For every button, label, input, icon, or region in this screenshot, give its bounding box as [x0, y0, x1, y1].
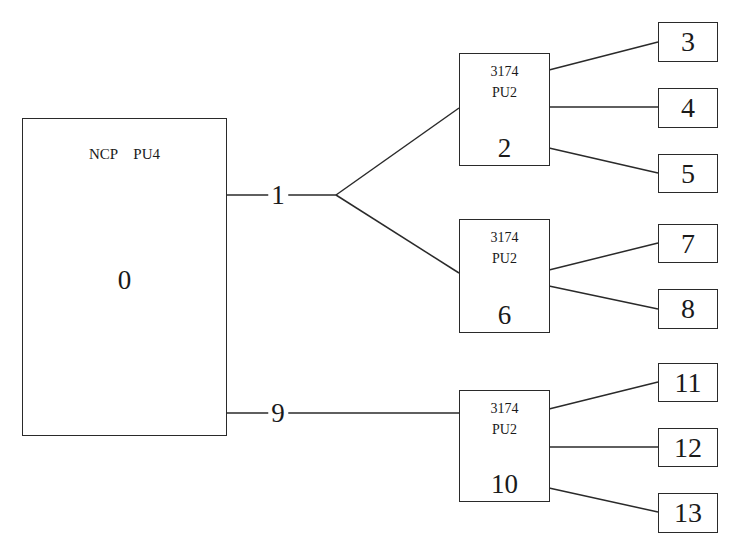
link-1-branch-to-6 [336, 195, 459, 273]
controller-box-6: 3174 PU2 6 [459, 219, 550, 333]
controller-model: 3174 [460, 402, 549, 416]
host-ncp-box: NCP PU4 0 [22, 118, 227, 436]
host-title: NCP PU4 [23, 146, 226, 163]
terminal-box-4: 4 [658, 88, 718, 128]
terminal-box-11: 11 [658, 363, 718, 402]
controller-id: 10 [460, 471, 549, 498]
controller-box-2: 3174 PU2 2 [459, 53, 550, 166]
network-diagram: NCP PU4 0 1 9 3174 PU2 2 3174 PU2 6 3174… [0, 0, 743, 554]
controller-pu: PU2 [460, 86, 549, 100]
link-1-branch-to-2 [336, 108, 459, 195]
controller-pu: PU2 [460, 423, 549, 437]
edge-2-3 [549, 42, 658, 70]
terminal-box-12: 12 [658, 428, 718, 467]
controller-model: 3174 [460, 231, 549, 245]
controller-id: 6 [460, 302, 549, 329]
edge-10-11 [549, 382, 658, 409]
terminal-box-5: 5 [658, 154, 718, 193]
controller-id: 2 [460, 135, 549, 162]
terminal-box-7: 7 [658, 224, 718, 263]
controller-model: 3174 [460, 65, 549, 79]
link-label-1: 1 [268, 182, 288, 209]
controller-pu: PU2 [460, 252, 549, 266]
link-label-9: 9 [268, 400, 288, 427]
edge-6-8 [549, 286, 658, 309]
edge-2-5 [549, 148, 658, 173]
terminal-box-13: 13 [658, 493, 718, 533]
controller-box-10: 3174 PU2 10 [459, 390, 550, 502]
host-id: 0 [23, 265, 226, 296]
terminal-box-3: 3 [658, 22, 718, 62]
terminal-box-8: 8 [658, 289, 718, 329]
edge-6-7 [549, 243, 658, 270]
edge-10-13 [549, 488, 658, 512]
